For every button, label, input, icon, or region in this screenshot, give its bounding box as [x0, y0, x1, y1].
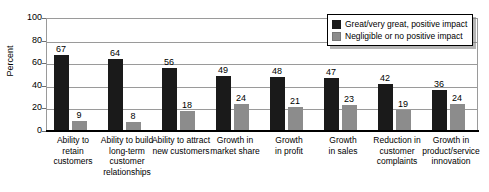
category-label: Ability to attractnew customers: [150, 135, 212, 156]
bar-group: 5618: [154, 18, 208, 131]
category-label-line: Ability to attract: [150, 135, 212, 146]
y-tick-label-60: 60: [4, 58, 42, 67]
category-label-line: Ability to: [42, 135, 104, 146]
y-tick-label-80: 80: [4, 36, 42, 45]
category-label-line: relationships: [96, 167, 158, 178]
bar-value-label: 42: [372, 74, 398, 83]
legend-swatch-icon-light: [332, 32, 341, 41]
bar: [234, 104, 249, 131]
category-label-line: Growth in: [420, 135, 482, 146]
category-label-line: product/service: [420, 146, 482, 157]
bar-group: 4924: [208, 18, 262, 131]
y-axis-tick-labels: 020406080100: [0, 0, 42, 192]
category-label: Growth inmarket share: [204, 135, 266, 156]
legend: Great/very great, positive impact Neglig…: [327, 14, 473, 46]
category-label: Ability to buildlong-termcustomerrelatio…: [96, 135, 158, 177]
bar-group: 648: [100, 18, 154, 131]
category-label-line: new customers: [150, 146, 212, 157]
bar-value-label: 9: [66, 111, 92, 120]
legend-swatch-icon-dark: [332, 20, 341, 29]
y-tick-label-20: 20: [4, 103, 42, 112]
bar-value-label: 23: [336, 95, 362, 104]
y-tick-label-0: 0: [4, 126, 42, 135]
category-label: Reduction incustomercomplaints: [366, 135, 428, 167]
y-tick-label-100: 100: [4, 13, 42, 22]
bar: [180, 111, 195, 131]
category-label-line: customer: [96, 156, 158, 167]
category-label-line: in profit: [258, 146, 320, 157]
bar: [450, 104, 465, 131]
bar: [342, 105, 357, 131]
category-label-line: customer: [366, 146, 428, 157]
bar-value-label: 47: [318, 68, 344, 77]
category-label-line: retain: [42, 146, 104, 157]
category-label-line: customers: [42, 156, 104, 167]
category-label: Growthin profit: [258, 135, 320, 156]
legend-label-light: Negligible or no positive impact: [345, 31, 463, 41]
bar: [216, 76, 231, 131]
category-label-line: Reduction in: [366, 135, 428, 146]
bar-value-label: 21: [282, 97, 308, 106]
category-label-line: Growth in: [204, 135, 266, 146]
legend-item-dark: Great/very great, positive impact: [332, 18, 467, 30]
category-label-line: complaints: [366, 156, 428, 167]
bar-value-label: 24: [444, 94, 470, 103]
bar-value-label: 24: [228, 94, 254, 103]
legend-item-light: Negligible or no positive impact: [332, 30, 467, 42]
bar: [162, 68, 177, 131]
legend-label-dark: Great/very great, positive impact: [345, 19, 467, 29]
bar: [288, 107, 303, 131]
bar-group: 4821: [262, 18, 316, 131]
category-label-line: market share: [204, 146, 266, 157]
bar-value-label: 67: [48, 45, 74, 54]
bar: [324, 78, 339, 131]
category-label-line: Growth: [312, 135, 374, 146]
category-label-line: long-term: [96, 146, 158, 157]
bar-value-label: 8: [120, 112, 146, 121]
category-label-line: in sales: [312, 146, 374, 157]
bar-group: 679: [46, 18, 100, 131]
y-tick-label-40: 40: [4, 81, 42, 90]
bar-value-label: 64: [102, 49, 128, 58]
category-label: Ability toretaincustomers: [42, 135, 104, 167]
bar-chart: Percent 020406080100 6796485618492448214…: [0, 0, 489, 192]
category-label: Growth inproduct/serviceinnovation: [420, 135, 482, 167]
x-axis-category-labels: Ability toretaincustomersAbility to buil…: [46, 135, 478, 192]
x-axis-baseline: [46, 130, 479, 132]
bar-value-label: 36: [426, 80, 452, 89]
bar-value-label: 48: [264, 67, 290, 76]
category-label: Growthin sales: [312, 135, 374, 156]
category-label-line: innovation: [420, 156, 482, 167]
bar-value-label: 56: [156, 58, 182, 67]
bar-value-label: 18: [174, 101, 200, 110]
category-label-line: Growth: [258, 135, 320, 146]
bar-value-label: 19: [390, 100, 416, 109]
category-label-line: Ability to build: [96, 135, 158, 146]
bar-value-label: 49: [210, 66, 236, 75]
bar: [396, 110, 411, 131]
